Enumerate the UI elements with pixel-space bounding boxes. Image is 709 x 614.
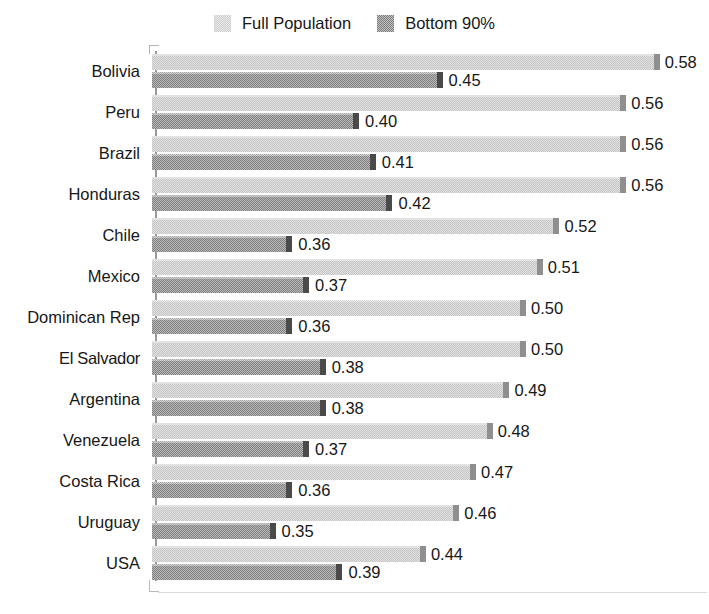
- bar-bottom[interactable]: 0.39: [152, 564, 342, 580]
- bar-value-label-bottom: 0.37: [315, 277, 347, 294]
- bar-highlight: [152, 195, 392, 197]
- bar-full[interactable]: 0.51: [152, 259, 543, 275]
- bar-fill-bottom: [152, 154, 376, 170]
- bar-bottom[interactable]: 0.38: [152, 400, 326, 416]
- category-axis-label: Peru: [105, 104, 140, 121]
- bar-bottom[interactable]: 0.37: [152, 277, 309, 293]
- bar-bottom[interactable]: 0.40: [152, 113, 359, 129]
- bar-fill-full: [152, 341, 526, 357]
- axis-base-cap: [149, 580, 159, 592]
- bar-endcap: [620, 95, 626, 111]
- legend-item-full-population[interactable]: Full Population: [214, 15, 351, 32]
- bar-value-label-bottom: 0.45: [449, 72, 481, 89]
- bar-highlight: [152, 218, 559, 220]
- chart-root: Full Population Bottom 90% Bolivia0.580.…: [0, 0, 709, 614]
- bar-endcap: [453, 505, 459, 521]
- bar-full[interactable]: 0.44: [152, 546, 426, 562]
- bar-value-label-bottom: 0.38: [332, 400, 364, 417]
- bar-value-label-full: 0.50: [531, 300, 563, 317]
- bar-bottom[interactable]: 0.42: [152, 195, 392, 211]
- bar-value-label-bottom: 0.36: [298, 236, 330, 253]
- bar-fill-bottom: [152, 564, 342, 580]
- bar-bottom[interactable]: 0.36: [152, 482, 292, 498]
- bar-full[interactable]: 0.52: [152, 218, 559, 234]
- axis-floor-line: [158, 592, 707, 594]
- bar-highlight: [152, 523, 276, 525]
- bar-full[interactable]: 0.50: [152, 300, 526, 316]
- bar-value-label-full: 0.49: [514, 382, 546, 399]
- bar-full[interactable]: 0.46: [152, 505, 459, 521]
- category-row: Uruguay0.460.35: [152, 505, 709, 539]
- bar-bottom[interactable]: 0.41: [152, 154, 376, 170]
- bar-highlight: [152, 464, 476, 466]
- bar-full[interactable]: 0.47: [152, 464, 476, 480]
- category-row: El Salvador0.500.38: [152, 341, 709, 375]
- axis-top-cap: [149, 45, 159, 54]
- bar-endcap: [286, 236, 292, 252]
- bar-full[interactable]: 0.56: [152, 95, 626, 111]
- category-row: Argentina0.490.38: [152, 382, 709, 416]
- category-axis-label: Chile: [102, 227, 140, 244]
- bar-value-label-full: 0.48: [498, 423, 530, 440]
- bar-full[interactable]: 0.49: [152, 382, 509, 398]
- bar-bottom[interactable]: 0.37: [152, 441, 309, 457]
- bar-value-label-bottom: 0.37: [315, 441, 347, 458]
- bar-bottom[interactable]: 0.36: [152, 236, 292, 252]
- legend-item-bottom-90[interactable]: Bottom 90%: [377, 15, 495, 32]
- bar-bottom[interactable]: 0.38: [152, 359, 326, 375]
- category-axis-label: Honduras: [68, 186, 140, 203]
- category-row: Bolivia0.580.45: [152, 54, 709, 88]
- bar-endcap: [320, 359, 326, 375]
- bar-endcap: [553, 218, 559, 234]
- bar-endcap: [654, 54, 660, 70]
- category-axis-label: Mexico: [88, 268, 140, 285]
- bar-endcap: [370, 154, 376, 170]
- bar-highlight: [152, 259, 543, 261]
- bar-endcap: [353, 113, 359, 129]
- bar-fill-bottom: [152, 236, 292, 252]
- bar-fill-bottom: [152, 359, 326, 375]
- category-axis-label: Dominican Rep: [27, 309, 140, 326]
- bar-endcap: [487, 423, 493, 439]
- plot-area: Bolivia0.580.45Peru0.560.40Brazil0.560.4…: [152, 45, 709, 581]
- bar-fill-full: [152, 136, 626, 152]
- bar-bottom[interactable]: 0.35: [152, 523, 276, 539]
- bar-highlight: [152, 154, 376, 156]
- bar-full[interactable]: 0.56: [152, 136, 626, 152]
- bar-fill-full: [152, 177, 626, 193]
- bar-full[interactable]: 0.48: [152, 423, 493, 439]
- category-row: USA0.440.39: [152, 546, 709, 580]
- bar-value-label-bottom: 0.38: [332, 359, 364, 376]
- category-axis-label: Brazil: [99, 145, 140, 162]
- bar-fill-bottom: [152, 482, 292, 498]
- bar-endcap: [386, 195, 392, 211]
- bar-highlight: [152, 423, 493, 425]
- bar-endcap: [470, 464, 476, 480]
- bar-highlight: [152, 505, 459, 507]
- category-row: Peru0.560.40: [152, 95, 709, 129]
- bar-value-label-full: 0.46: [464, 505, 496, 522]
- bar-highlight: [152, 54, 660, 56]
- bar-fill-full: [152, 546, 426, 562]
- category-row: Dominican Rep0.500.36: [152, 300, 709, 334]
- bar-endcap: [286, 482, 292, 498]
- bar-full[interactable]: 0.50: [152, 341, 526, 357]
- category-axis-label: Costa Rica: [59, 473, 140, 490]
- bar-full[interactable]: 0.58: [152, 54, 660, 70]
- bar-bottom[interactable]: 0.45: [152, 72, 443, 88]
- bar-value-label-full: 0.58: [665, 54, 697, 71]
- bar-value-label-full: 0.56: [631, 95, 663, 112]
- bar-fill-full: [152, 218, 559, 234]
- legend-label-full-population: Full Population: [242, 15, 351, 32]
- bar-fill-full: [152, 259, 543, 275]
- bar-highlight: [152, 482, 292, 484]
- bar-full[interactable]: 0.56: [152, 177, 626, 193]
- bar-fill-bottom: [152, 318, 292, 334]
- bar-bottom[interactable]: 0.36: [152, 318, 292, 334]
- bar-fill-bottom: [152, 523, 276, 539]
- bar-highlight: [152, 546, 426, 548]
- bar-endcap: [437, 72, 443, 88]
- legend-swatch-icon-bottom-90: [377, 15, 394, 32]
- category-axis-label: Bolivia: [91, 63, 140, 80]
- bar-highlight: [152, 564, 342, 566]
